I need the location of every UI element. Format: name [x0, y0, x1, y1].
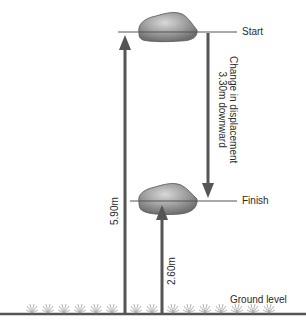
- start-label: Start: [242, 26, 263, 37]
- finish-rock-icon: [139, 184, 197, 215]
- start-rock-icon: [139, 13, 197, 42]
- ground-level-label: Ground level: [230, 294, 287, 305]
- displacement-arrow: [202, 33, 214, 198]
- start-height-label: 5.90m: [109, 197, 120, 225]
- start-height-arrow: [119, 35, 131, 314]
- displacement-label-line2: 3.30m downward: [217, 56, 228, 163]
- finish-label: Finish: [242, 195, 269, 206]
- displacement-label: Change in displacement 3.30m downward: [217, 56, 239, 163]
- diagram-canvas: [0, 0, 306, 331]
- grass-icons: [26, 304, 275, 313]
- displacement-label-line1: Change in displacement: [228, 56, 239, 163]
- finish-height-label: 2.60m: [166, 257, 177, 285]
